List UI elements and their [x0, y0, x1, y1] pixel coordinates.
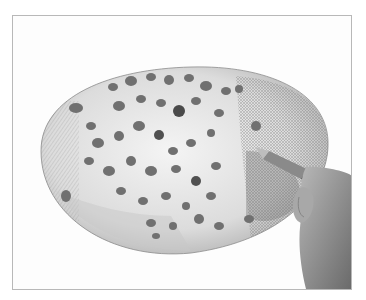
hand	[293, 167, 351, 289]
pencil-drawing-illustration	[13, 16, 351, 289]
illustration-frame	[12, 15, 352, 290]
